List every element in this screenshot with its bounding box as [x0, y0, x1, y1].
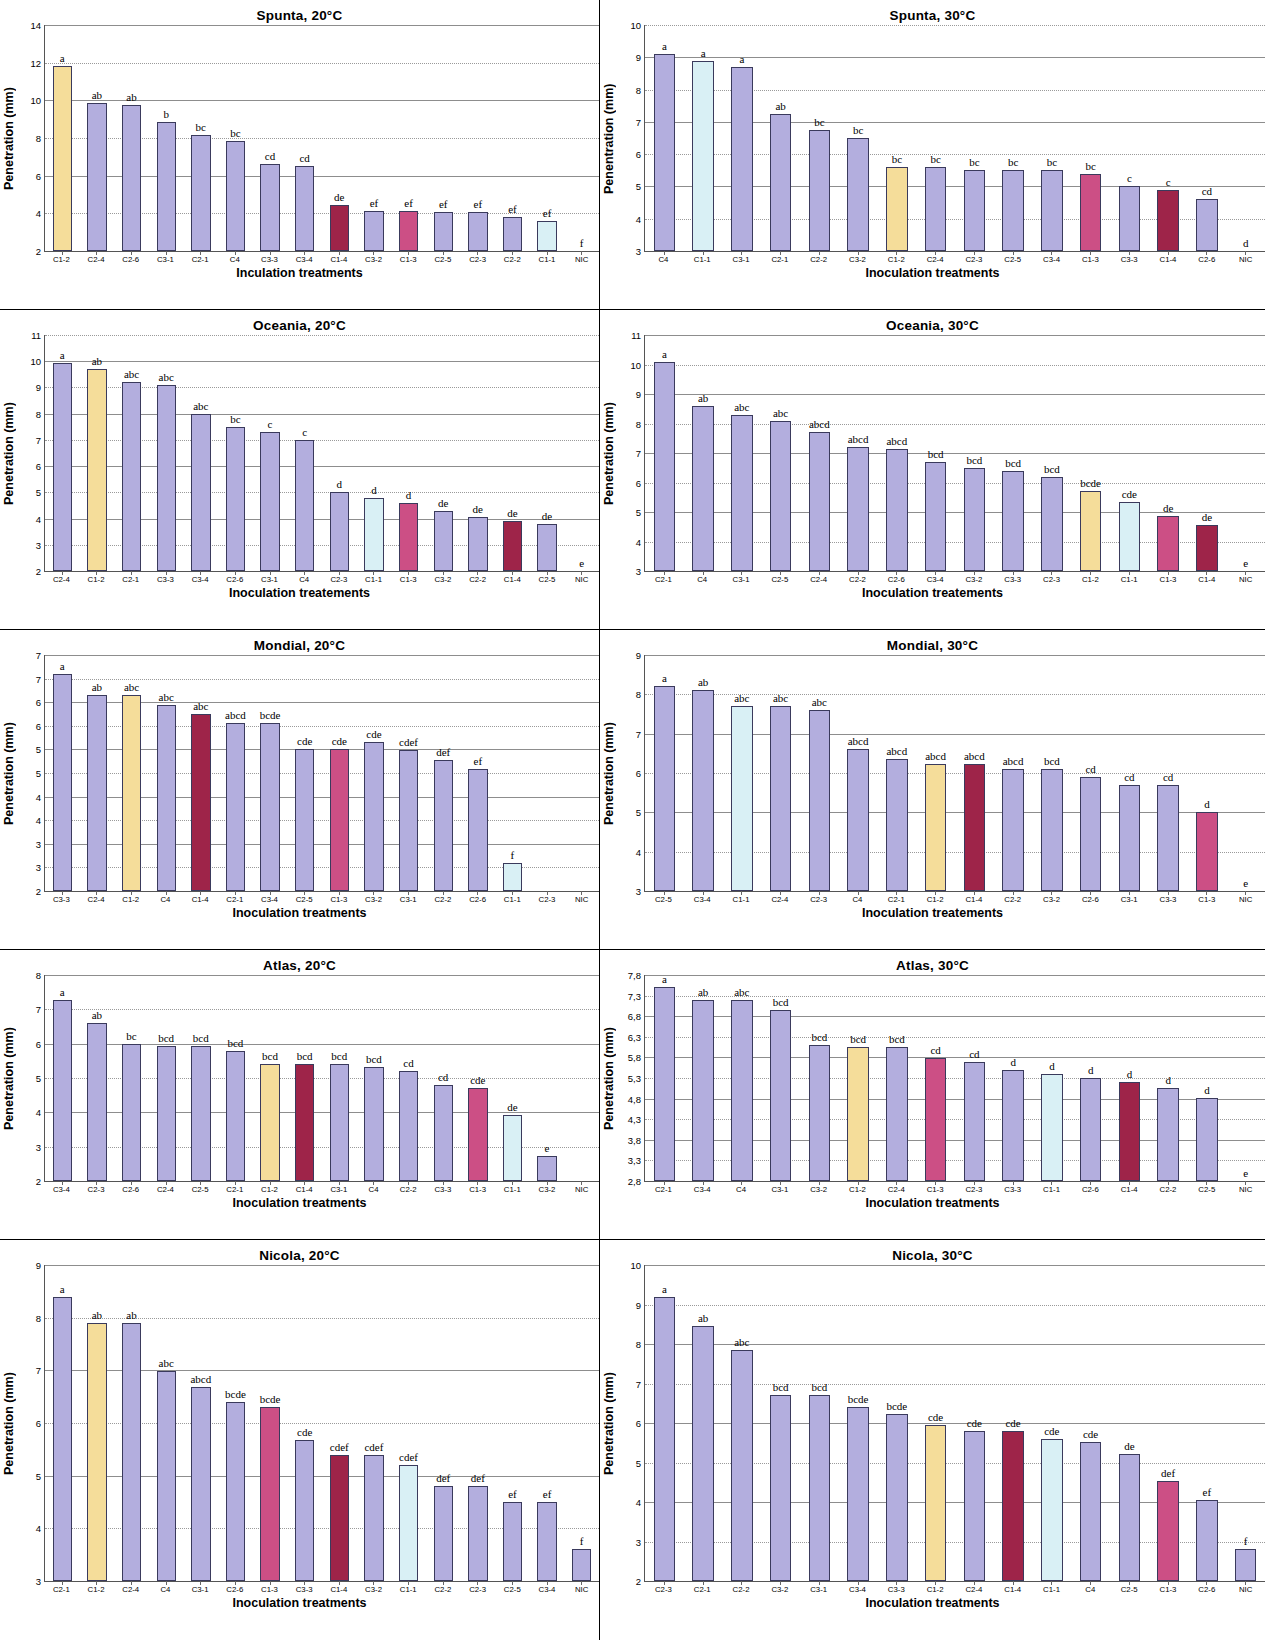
chart-title: Nicola, 30°C — [600, 1240, 1265, 1265]
significance-label: cde — [967, 1417, 982, 1429]
bar-slot: a — [684, 25, 723, 251]
bar-C1-1 — [692, 61, 714, 251]
x-tick-marks — [45, 571, 599, 575]
x-axis-title: Inoculation treatments — [0, 1596, 599, 1617]
x-axis-title: Inoculation treatments — [0, 1196, 599, 1217]
bar-C3-1 — [731, 67, 753, 251]
y-tick-label: 10 — [630, 359, 641, 370]
y-tick-label: 4 — [636, 1497, 641, 1508]
significance-label: d — [1243, 237, 1249, 249]
significance-label: bcd — [928, 448, 944, 460]
significance-label: abc — [773, 407, 788, 419]
bar-C2-2 — [434, 760, 453, 891]
x-axis-title: Inoculation treatments — [0, 906, 599, 927]
x-tick-label: C1-4 — [1149, 255, 1188, 264]
bar-slot: a — [645, 25, 684, 251]
significance-label: abcd — [1003, 755, 1024, 767]
y-tick-label: 6 — [36, 461, 41, 472]
bar-slot: def — [1149, 1265, 1188, 1581]
bar-C2-6 — [226, 427, 245, 571]
bar-C2-3 — [964, 170, 986, 251]
significance-label: de — [507, 507, 517, 519]
bar-C2-5 — [503, 1502, 522, 1581]
bar-C3-2 — [1041, 769, 1063, 891]
x-tick-label: C1-1 — [530, 255, 565, 264]
significance-label: bc — [126, 1030, 136, 1042]
bar-slot: de — [461, 335, 496, 571]
y-axis-ticks: 2345678 — [18, 975, 44, 1181]
bar-C2-6 — [1080, 777, 1102, 891]
y-tick-label: 6 — [36, 720, 41, 731]
y-axis-title: Penetration (mm) — [0, 25, 18, 252]
bar-C2-2 — [1157, 1088, 1179, 1181]
x-tick-label: C3-1 — [1110, 895, 1149, 904]
bar-slot: cd — [916, 975, 955, 1181]
bar-slot: a — [45, 1265, 80, 1581]
bar-slot: ef — [495, 25, 530, 251]
bar-C1-1 — [1041, 1439, 1063, 1581]
significance-label: abcd — [886, 745, 907, 757]
bar-C1-4 — [191, 714, 210, 891]
bar-slot: cde — [916, 1265, 955, 1581]
x-tick-label: NIC — [1226, 1185, 1265, 1194]
chart-panel-oceania-20: Oceania, 20°CPenetration (mm)23456789101… — [0, 310, 600, 630]
x-axis-tick-labels: C2-3C2-1C2-2C3-2C3-1C3-4C3-3C1-2C2-4C1-4… — [644, 1585, 1265, 1594]
significance-label: de — [438, 497, 448, 509]
significance-label: bc — [196, 121, 206, 133]
bar-slot: cdef — [391, 655, 426, 891]
bar-slot: bc — [114, 975, 149, 1181]
bar-C2-4 — [964, 1431, 986, 1581]
significance-label: cde — [1083, 1428, 1098, 1440]
bar-slot: ef — [357, 25, 392, 251]
x-tick-label: C3-3 — [148, 575, 183, 584]
bar-slot: bcd — [955, 335, 994, 571]
significance-label: ef — [370, 197, 379, 209]
bar-C1-1 — [731, 706, 753, 891]
chart-panel-mondial-20: Mondial, 20°CPenetration (mm)23344556677… — [0, 630, 600, 950]
significance-label: cde — [1044, 1425, 1059, 1437]
chart-title: Nicola, 20°C — [0, 1240, 599, 1265]
bar-C1-2 — [925, 764, 947, 891]
significance-label: d — [1204, 798, 1210, 810]
bar-slot: def — [461, 1265, 496, 1581]
x-tick-label: C4 — [644, 255, 683, 264]
bar-slot: bcd — [800, 975, 839, 1181]
significance-label: abcd — [225, 709, 246, 721]
bar-slot: d — [357, 335, 392, 571]
significance-label: bcd — [193, 1032, 209, 1044]
bar-C3-2 — [847, 138, 869, 251]
significance-label: abcd — [848, 433, 869, 445]
bar-C3-3 — [260, 164, 279, 251]
x-tick-label: C2-6 — [1071, 895, 1110, 904]
bar-slot: a — [45, 335, 80, 571]
significance-label: bc — [892, 153, 902, 165]
bar-C2-5 — [191, 1046, 210, 1181]
bar-C3-3 — [53, 674, 72, 891]
y-tick-label: 4,3 — [628, 1114, 641, 1125]
significance-label: def — [436, 746, 450, 758]
bar-C2-4 — [925, 167, 947, 251]
plot-area: Penetration (mm)2345678910aababcbcdbcdbc… — [600, 1265, 1265, 1582]
significance-label: ab — [698, 986, 708, 998]
significance-label: f — [511, 849, 515, 861]
bar-slot: abc — [184, 655, 219, 891]
bar-C2-6 — [1196, 199, 1218, 251]
bar-slot: a — [723, 25, 762, 251]
x-tick-label: C2-4 — [44, 575, 79, 584]
x-tick-label: C3-2 — [530, 1185, 565, 1194]
bar-C4 — [847, 749, 869, 891]
bar-C1-1 — [503, 1115, 522, 1181]
significance-label: ab — [698, 1312, 708, 1324]
x-tick-marks — [645, 1181, 1265, 1185]
significance-label: a — [60, 986, 65, 998]
y-axis-ticks: 2,83,33,84,34,85,35,86,36,87,37,8 — [618, 975, 644, 1181]
bar-slot: bc — [878, 25, 917, 251]
x-tick-label: C4 — [838, 895, 877, 904]
bar-slot: abcd — [184, 1265, 219, 1581]
bar-C3-1 — [1119, 785, 1141, 891]
bar-C3-4 — [537, 1502, 556, 1581]
bar-C3-3 — [1119, 186, 1141, 251]
bar-slot: ef — [426, 25, 461, 251]
x-tick-label: C2-6 — [217, 575, 252, 584]
plot-area: Penetration (mm)23344556677aababcabcabca… — [0, 655, 599, 892]
